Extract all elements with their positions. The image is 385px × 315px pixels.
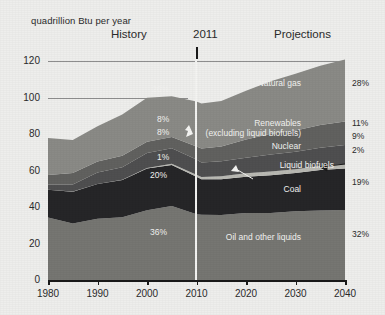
x-tick-mark [48,280,50,285]
share-2040-label: 9% [352,131,374,141]
x-tick-label: 2010 [177,288,217,299]
history-period-label: History [111,28,147,40]
share-2011-label: 8% [157,127,169,137]
divider-year-label: 2011 [193,28,218,40]
y-tick-label: 40 [10,201,40,212]
x-tick-mark [197,280,199,285]
y-tick-label: 100 [10,92,40,103]
share-2040-label: 11% [352,118,374,128]
share-2040-label: 32% [352,229,374,239]
x-tick-label: 2020 [226,288,266,299]
share-2040-label: 2% [352,145,374,155]
series-label: Oil and other liquids [226,232,301,242]
series-label-line: Coal [284,184,301,194]
series-label: Liquid biofuels [280,160,334,170]
x-tick-label: 2030 [276,288,316,299]
divider-tick-mark [196,47,198,59]
x-tick-label: 1990 [78,288,118,299]
series-label-line: Liquid biofuels [280,160,334,170]
x-tick-label: 1980 [28,288,68,299]
series-label: Natural gas [258,78,301,88]
y-axis-title: quadrillion Btu per year [31,15,131,26]
share-2011-label: 8% [157,114,169,124]
chart-figure: quadrillion Btu per year History 2011 Pr… [0,0,385,315]
share-2011-label: 26% [152,84,169,94]
series-label-line: Natural gas [258,78,301,88]
x-tick-mark [345,280,347,285]
x-tick-label: 2040 [325,288,365,299]
x-tick-mark [98,280,100,285]
share-2040-label: 19% [352,177,374,187]
x-tick-mark [246,280,248,285]
y-tick-label: 0 [10,274,40,285]
history-projection-divider [195,52,197,280]
series-label-line: (excluding liquid biofuels) [206,128,301,138]
y-tick-label: 120 [10,55,40,66]
series-label-line: Renewables [206,118,301,128]
share-2011-label: 1% [157,152,169,162]
share-2011-label: 36% [150,227,167,237]
series-label: Renewables(excluding liquid biofuels) [206,118,301,138]
y-tick-label: 20 [10,238,40,249]
y-tick-label: 60 [10,165,40,176]
x-tick-mark [296,280,298,285]
x-tick-label: 2000 [127,288,167,299]
x-tick-mark [147,280,149,285]
series-label-line: Oil and other liquids [226,232,301,242]
series-label: Nuclear [272,141,301,151]
series-label: Coal [284,184,301,194]
projections-period-label: Projections [274,28,331,40]
y-tick-label: 80 [10,128,40,139]
share-2040-label: 28% [352,78,374,88]
series-label-line: Nuclear [272,141,301,151]
share-2011-label: 20% [150,170,167,180]
